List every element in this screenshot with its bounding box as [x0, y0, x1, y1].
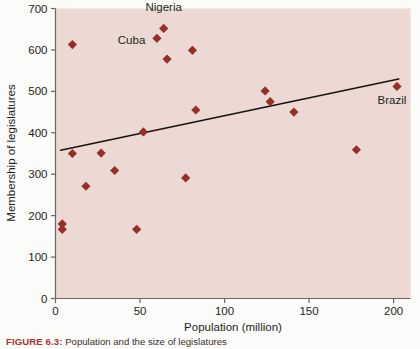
x-tick-label: 100 — [215, 305, 234, 317]
figure-caption-label: FIGURE 6.3: — [6, 336, 63, 347]
figure-caption: FIGURE 6.3: Population and the size of l… — [6, 336, 418, 348]
point-annotation-label: Brazil — [378, 94, 407, 106]
point-annotation-label: Nigeria — [145, 1, 182, 13]
figure-caption-text: Population and the size of legislatures — [65, 336, 227, 347]
y-tick-label: 400 — [28, 127, 47, 139]
y-tick-label: 200 — [28, 210, 47, 222]
x-axis-title: Population (million) — [184, 321, 282, 333]
y-axis-title: Membership of legislatures — [5, 84, 17, 222]
scatter-chart: 0100200300400500600700 050100150200 Nige… — [0, 0, 420, 349]
y-tick-label: 100 — [28, 251, 47, 263]
x-tick-label: 200 — [384, 305, 403, 317]
point-annotation-label: Cuba — [118, 34, 146, 46]
y-tick-label: 500 — [28, 85, 47, 97]
y-tick-label: 600 — [28, 44, 47, 56]
x-tick-label: 50 — [134, 305, 147, 317]
x-axis-ticks: 050100150200 — [52, 299, 403, 317]
x-tick-label: 0 — [52, 305, 58, 317]
y-tick-label: 700 — [28, 3, 47, 15]
y-tick-label: 300 — [28, 168, 47, 180]
y-axis-ticks: 0100200300400500600700 — [28, 3, 55, 305]
figure-container: 0100200300400500600700 050100150200 Nige… — [0, 0, 420, 349]
y-tick-label: 0 — [41, 293, 47, 305]
x-tick-label: 150 — [299, 305, 318, 317]
